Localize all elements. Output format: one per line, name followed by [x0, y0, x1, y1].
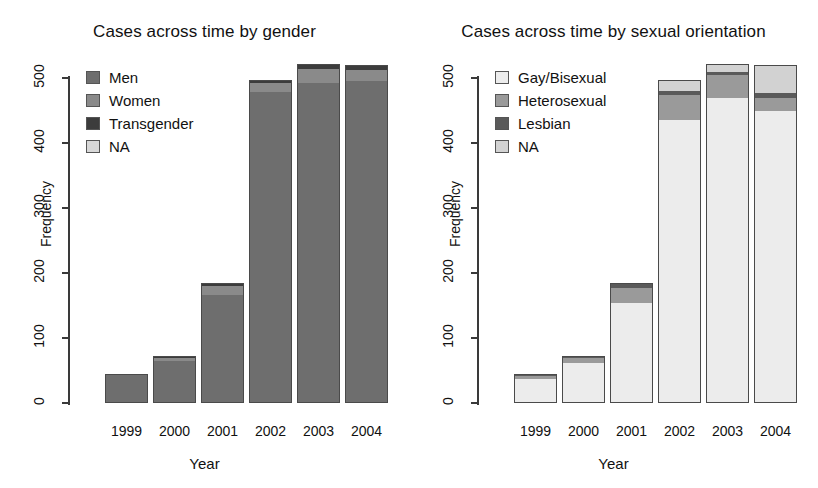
legend-swatch-icon	[495, 140, 509, 153]
bar-segment-men	[106, 375, 147, 402]
legend-item-transgender: Transgender	[86, 112, 194, 135]
legend-item-men: Men	[86, 66, 194, 89]
bar-1999	[514, 374, 557, 403]
legend-swatch-icon	[495, 94, 509, 107]
bar-2004	[754, 65, 797, 403]
x-tick-label-2001: 2001	[200, 423, 246, 439]
legend-item-lesbian: Lesbian	[495, 112, 606, 135]
x-tick-label-2004: 2004	[344, 423, 390, 439]
legend-item-heterosexual: Heterosexual	[495, 89, 606, 112]
legend-label: Lesbian	[518, 115, 571, 132]
legend-item-na: NA	[495, 135, 606, 158]
x-tick-label-2002: 2002	[248, 423, 294, 439]
legend-label: Gay/Bisexual	[518, 69, 606, 86]
legend-gender: MenWomenTransgenderNA	[86, 66, 194, 158]
x-tick-label-2003: 2003	[705, 423, 751, 439]
x-axis-label-gender: Year	[0, 455, 409, 472]
bar-segment-men	[154, 361, 195, 402]
legend-label: Heterosexual	[518, 92, 606, 109]
bar-segment-heterosexual	[659, 95, 700, 120]
bar-segment-women	[346, 70, 387, 81]
bar-segment-gay-bisexual	[515, 379, 556, 402]
bar-segment-men	[250, 92, 291, 402]
bar-segment-gay-bisexual	[755, 111, 796, 402]
legend-orientation: Gay/BisexualHeterosexualLesbianNA	[495, 66, 606, 158]
bar-segment-gay-bisexual	[659, 120, 700, 402]
x-tick-label-2002: 2002	[657, 423, 703, 439]
legend-swatch-icon	[86, 71, 100, 84]
legend-label: Men	[109, 69, 138, 86]
plot-area-gender: 0100200300400500 Frequency 1999200020012…	[0, 0, 409, 488]
bar-segment-na	[755, 66, 796, 93]
bar-segment-gay-bisexual	[707, 98, 748, 402]
bar-2004	[345, 65, 388, 403]
legend-label: NA	[518, 138, 539, 155]
x-tick-label-2004: 2004	[753, 423, 799, 439]
legend-item-women: Women	[86, 89, 194, 112]
legend-label: Women	[109, 92, 160, 109]
legend-swatch-icon	[86, 117, 100, 130]
bar-2002	[249, 80, 292, 403]
legend-label: NA	[109, 138, 130, 155]
bar-segment-heterosexual	[707, 75, 748, 98]
bar-2002	[658, 80, 701, 403]
figure-two-panel-bar-charts: Cases across time by gender 010020030040…	[0, 0, 818, 488]
x-tick-label-2003: 2003	[296, 423, 342, 439]
x-tick-label-2000: 2000	[152, 423, 198, 439]
bar-2000	[562, 356, 605, 403]
bar-segment-men	[346, 81, 387, 402]
bar-2003	[297, 64, 340, 403]
legend-swatch-icon	[86, 94, 100, 107]
bar-segment-na	[707, 65, 748, 72]
legend-swatch-icon	[86, 140, 100, 153]
legend-item-gay-bisexual: Gay/Bisexual	[495, 66, 606, 89]
legend-swatch-icon	[495, 117, 509, 130]
bar-segment-women	[250, 83, 291, 92]
bar-group-gender	[0, 0, 409, 488]
bar-segment-men	[202, 295, 243, 402]
bar-2001	[201, 283, 244, 403]
x-axis-label-orientation: Year	[409, 455, 818, 472]
bar-segment-heterosexual	[755, 98, 796, 112]
x-tick-label-2000: 2000	[561, 423, 607, 439]
bar-segment-gay-bisexual	[563, 363, 604, 402]
bar-segment-heterosexual	[611, 288, 652, 303]
x-tick-label-1999: 1999	[513, 423, 559, 439]
bar-2000	[153, 356, 196, 403]
panel-cases-by-gender: Cases across time by gender 010020030040…	[0, 0, 409, 488]
bar-segment-na	[659, 81, 700, 91]
x-tick-label-1999: 1999	[104, 423, 150, 439]
bar-segment-women	[202, 286, 243, 294]
bar-segment-gay-bisexual	[611, 303, 652, 402]
legend-swatch-icon	[495, 71, 509, 84]
bar-1999	[105, 374, 148, 403]
bar-2001	[610, 283, 653, 403]
legend-item-na: NA	[86, 135, 194, 158]
panel-cases-by-sexual-orientation: Cases across time by sexual orientation …	[409, 0, 818, 488]
bar-segment-women	[298, 69, 339, 83]
bar-group-orientation	[409, 0, 818, 488]
legend-label: Transgender	[109, 115, 194, 132]
bar-2003	[706, 64, 749, 403]
plot-area-orientation: 0100200300400500 Frequency 1999200020012…	[409, 0, 818, 488]
bar-segment-men	[298, 83, 339, 402]
x-tick-label-2001: 2001	[609, 423, 655, 439]
